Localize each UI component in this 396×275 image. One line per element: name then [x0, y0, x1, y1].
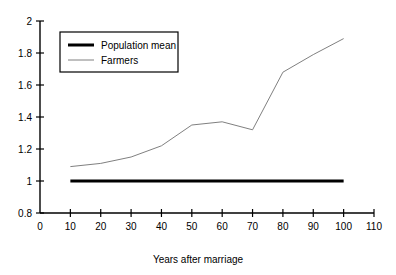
- legend-label-farmers: Farmers: [101, 55, 138, 66]
- x-tick-label: 30: [126, 221, 138, 232]
- x-tick-label: 40: [156, 221, 168, 232]
- y-tick-label: 1.2: [18, 144, 32, 155]
- x-axis-title: Years after marriage: [153, 254, 244, 265]
- x-tick-label: 50: [186, 221, 198, 232]
- chart-container: 0.811.21.41.61.82 0102030405060708090100…: [0, 0, 396, 275]
- x-tick-label: 90: [308, 221, 320, 232]
- y-tick-label: 2: [26, 16, 32, 27]
- x-tick-label: 110: [366, 221, 382, 232]
- x-tick-label: 20: [95, 221, 107, 232]
- legend-box: [60, 32, 178, 72]
- legend-label-population-mean: Population mean: [101, 40, 176, 51]
- x-tick-label: 60: [217, 221, 229, 232]
- x-tick-label: 70: [247, 221, 259, 232]
- x-tick-label: 80: [277, 221, 289, 232]
- x-tick-label: 100: [335, 221, 352, 232]
- x-tick-label: 10: [65, 221, 77, 232]
- y-tick-label: 1: [26, 176, 32, 187]
- x-tick-label: 0: [37, 221, 43, 232]
- y-tick-label: 1.8: [18, 48, 32, 59]
- legend: Population mean Farmers: [60, 32, 178, 72]
- y-tick-label: 1.6: [18, 80, 32, 91]
- y-tick-label: 1.4: [18, 112, 32, 123]
- y-tick-label: 0.8: [18, 208, 32, 219]
- line-chart: 0.811.21.41.61.82 0102030405060708090100…: [0, 0, 396, 275]
